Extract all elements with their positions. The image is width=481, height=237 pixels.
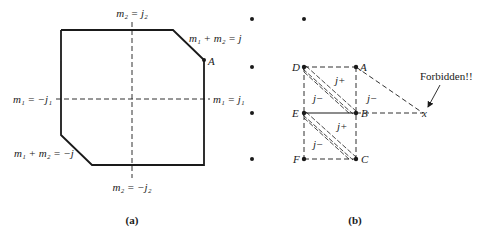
forbidden-arrow [428, 85, 440, 107]
point-d-dot [302, 65, 306, 69]
allowed-region-boundary [61, 30, 204, 165]
caption-a: (a) [126, 214, 139, 227]
label-left-axis: m₁ = −j₁ [13, 93, 52, 105]
label-f: F [292, 153, 300, 165]
label-bottom-axis: m₂ = −j₂ [113, 181, 152, 193]
region-label-j-plus-lower: j+ [335, 120, 347, 132]
label-d: D [291, 61, 300, 73]
label-upper-diagonal: m₁ + m₂ = j [189, 32, 241, 44]
label-point-a: A [207, 55, 215, 67]
region-label-j-minus-lower: j− [311, 138, 323, 150]
double-arrow-db [303, 66, 356, 114]
lattice-dot [250, 65, 254, 69]
label-b: B [361, 107, 368, 119]
point-a-dot [354, 65, 358, 69]
double-arrow-ec [303, 112, 356, 160]
label-right-axis: m₁ = j₁ [213, 93, 245, 105]
label-lower-diagonal: m₁ + m₂ = −j [14, 147, 74, 159]
region-label-j-minus-right: j− [365, 92, 377, 104]
point-b-dot [354, 111, 358, 115]
label-a: A [359, 61, 367, 73]
lattice-dot [250, 111, 254, 115]
angular-momentum-diagram: m₂ = j₂ m₂ = −j₂ m₁ = −j₁ m₁ = j₁ m₁ + m… [0, 0, 481, 237]
lattice-dot [250, 17, 254, 21]
panel-a: m₂ = j₂ m₂ = −j₂ m₁ = −j₁ m₁ = j₁ m₁ + m… [13, 7, 245, 227]
point-a-dot [202, 58, 206, 62]
label-top-axis: m₂ = j₂ [116, 7, 148, 19]
lattice-dot [302, 17, 306, 21]
point-f-dot [302, 157, 306, 161]
panel-b: D A E B F C x j+ j− j− j+ j− Forbidden!!… [250, 17, 473, 227]
label-x: x [421, 107, 427, 119]
caption-b: (b) [348, 214, 362, 227]
label-e: E [291, 107, 299, 119]
point-e-dot [302, 111, 306, 115]
region-label-j-plus-upper: j+ [333, 74, 345, 86]
lattice-dot [250, 157, 254, 161]
label-c: C [361, 153, 369, 165]
forbidden-annotation: Forbidden!! [420, 70, 473, 82]
region-label-j-minus-upper: j− [311, 92, 323, 104]
point-c-dot [354, 157, 358, 161]
